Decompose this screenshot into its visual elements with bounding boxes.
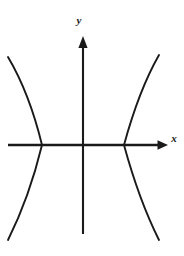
x-axis-label: x <box>170 132 177 144</box>
y-axis-arrowhead <box>78 36 87 48</box>
y-axis-label: y <box>75 14 82 26</box>
x-axis-arrowhead <box>158 140 169 150</box>
hyperbola-figure: y x <box>0 0 184 256</box>
hyperbola-left-branch <box>8 57 42 240</box>
graph-canvas: y x <box>0 0 184 256</box>
hyperbola-right-branch <box>124 55 159 240</box>
